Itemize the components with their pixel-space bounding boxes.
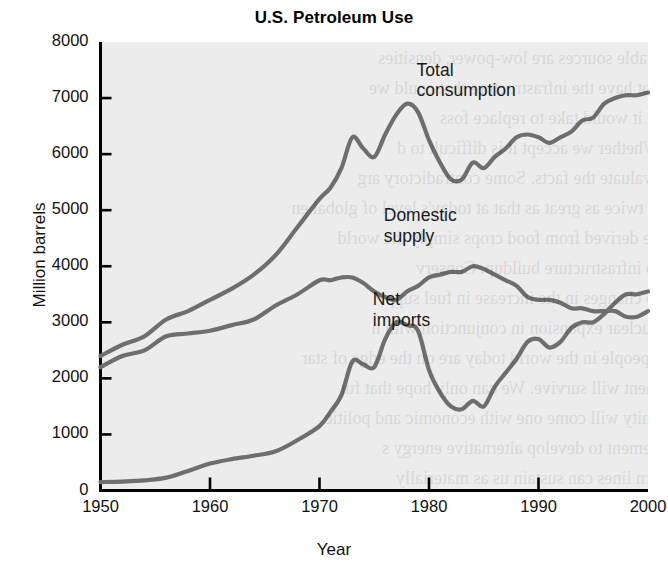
series-label-domestic-supply: Domestic supply <box>384 205 457 246</box>
y-tick-label: 6000 <box>19 143 89 162</box>
plot-background <box>100 42 648 492</box>
y-tick-label: 2000 <box>19 367 89 386</box>
y-tick-label: 8000 <box>19 31 89 50</box>
plot-area <box>0 0 668 578</box>
y-tick-label: 1000 <box>19 423 89 442</box>
y-tick-label: 7000 <box>19 87 89 106</box>
x-tick-label: 1950 <box>61 497 141 516</box>
series-label-net-imports: Net imports <box>373 289 430 330</box>
x-tick-label: 1990 <box>499 497 579 516</box>
series-label-total-consumption: Total consumption <box>417 60 516 101</box>
y-tick-label: 5000 <box>19 199 89 218</box>
x-tick-label: 2000 <box>608 497 668 516</box>
y-tick-label: 4000 <box>19 255 89 274</box>
x-tick-label: 1980 <box>389 497 469 516</box>
x-tick-label: 1960 <box>170 497 250 516</box>
y-tick-label: 3000 <box>19 311 89 330</box>
x-tick-label: 1970 <box>280 497 360 516</box>
chart-figure: wable sources are low-power, densitiesno… <box>0 0 668 578</box>
